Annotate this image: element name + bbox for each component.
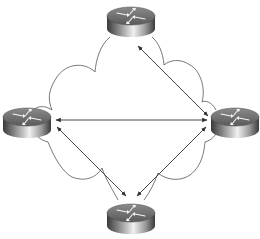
wan-cloud <box>31 37 218 200</box>
router-left-icon[interactable] <box>3 108 51 138</box>
router-right-icon[interactable] <box>211 108 259 138</box>
router-bottom-icon[interactable] <box>107 204 155 234</box>
link-top-right <box>138 46 208 116</box>
link-left-bottom <box>57 127 126 196</box>
link-right-bottom <box>137 127 206 196</box>
links <box>56 46 208 196</box>
network-diagram <box>0 0 260 239</box>
router-top-icon[interactable] <box>107 7 155 37</box>
